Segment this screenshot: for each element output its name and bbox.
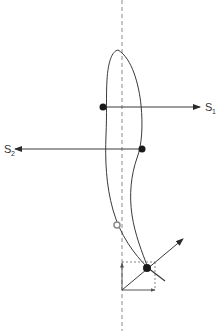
s2-subscript: 2 <box>11 150 15 157</box>
resultant-attachment-dot <box>143 264 151 272</box>
body-outline <box>106 50 148 268</box>
s1-subscript: 1 <box>212 108 216 115</box>
tail-tick <box>148 268 165 281</box>
center-marker-dot <box>114 222 120 228</box>
force-diagram: S 1 S 2 <box>0 0 217 331</box>
s2-attachment-dot <box>139 146 146 153</box>
s1-attachment-dot <box>100 104 107 111</box>
resultant-arrow <box>122 239 183 290</box>
